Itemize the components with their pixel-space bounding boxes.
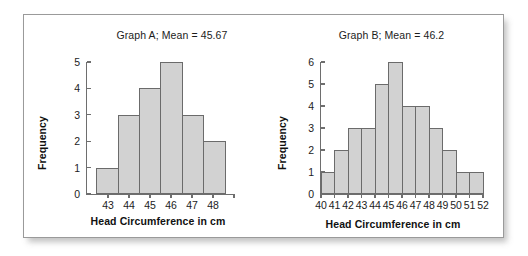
graph-b-plot-area: 0 1 2 3 4 bbox=[320, 62, 483, 195]
graph-b-ytick-label-1: 1 bbox=[308, 165, 314, 179]
graph-b-ytick-label-6: 6 bbox=[308, 55, 314, 69]
graph-b-xtick-label-49: 49 bbox=[435, 199, 449, 212]
tick-mark bbox=[128, 194, 129, 198]
graph-a-bar-44 bbox=[118, 115, 140, 194]
tick-mark bbox=[415, 194, 416, 198]
tick-mark bbox=[374, 194, 375, 198]
figure-panel: Graph A; Mean = 45.67 Frequency 0 1 2 bbox=[23, 14, 504, 238]
graph-b-xtick-label-45: 45 bbox=[381, 199, 395, 212]
graph-b-bar-46-47 bbox=[402, 106, 417, 194]
graph-b-y-axis-label: Frequency bbox=[276, 116, 288, 170]
graph-b-bar-41-42 bbox=[334, 150, 349, 194]
tick-mark bbox=[170, 194, 171, 198]
graph-b-xtick-label-50: 50 bbox=[449, 199, 463, 212]
graph-b-xtick-label-44: 44 bbox=[368, 199, 382, 212]
graph-a-xtick-label-44: 44 bbox=[119, 199, 139, 212]
graph-b-bar-49-50 bbox=[442, 150, 457, 194]
tick-mark bbox=[212, 194, 213, 198]
tick-mark bbox=[149, 194, 150, 198]
tick-mark bbox=[455, 194, 456, 198]
graph-b-bar-44-45 bbox=[375, 84, 390, 194]
graph-a-ytick-label-1: 1 bbox=[74, 161, 80, 175]
graph-a-title: Graph A; Mean = 45.67 bbox=[24, 29, 294, 41]
graph-b-bars bbox=[321, 62, 483, 194]
graph-a-ytick-label-0: 0 bbox=[74, 187, 80, 201]
graph-a-xtick-label-47: 47 bbox=[182, 199, 202, 212]
graph-b-xtick-label-46: 46 bbox=[395, 199, 409, 212]
tick-mark bbox=[401, 194, 402, 198]
graph-a-y-axis-label: Frequency bbox=[36, 116, 48, 170]
graph-a-x-axis-label: Head Circumference in cm bbox=[48, 215, 268, 227]
tick-mark bbox=[469, 194, 470, 198]
graph-a-ytick-label-4: 4 bbox=[74, 81, 80, 95]
tick-mark bbox=[347, 194, 348, 198]
graph-b-x-axis-label: Head Circumference in cm bbox=[288, 218, 498, 230]
tick-mark bbox=[361, 194, 362, 198]
graph-b-xtick-label-48: 48 bbox=[422, 199, 436, 212]
tick-mark bbox=[334, 194, 335, 198]
graph-b-xtick-label-47: 47 bbox=[408, 199, 422, 212]
graph-b-bar-47-48 bbox=[415, 106, 430, 194]
tick-mark bbox=[233, 194, 234, 198]
graph-a-bar-46 bbox=[160, 62, 182, 194]
graph-a-container: Graph A; Mean = 45.67 Frequency 0 1 2 bbox=[24, 15, 268, 237]
tick-mark bbox=[442, 194, 443, 198]
graph-b-bar-50-51 bbox=[456, 172, 471, 194]
graph-b-ytick-label-3: 3 bbox=[308, 121, 314, 135]
graph-a-xtick-label-46: 46 bbox=[161, 199, 181, 212]
tick-mark bbox=[482, 194, 483, 198]
tick-mark bbox=[191, 194, 192, 198]
graph-a-ytick-label-2: 2 bbox=[74, 134, 80, 148]
graph-b-ytick-label-4: 4 bbox=[308, 99, 314, 113]
graph-b-xtick-label-41: 41 bbox=[327, 199, 341, 212]
graph-a-ytick-label-3: 3 bbox=[74, 108, 80, 122]
graph-b-bar-45-46 bbox=[388, 62, 403, 194]
graph-b-container: Graph B; Mean = 46.2 Frequency 0 1 2 bbox=[268, 15, 503, 237]
graph-a-plot-area: 0 1 2 3 4 bbox=[86, 62, 234, 195]
graph-b-bar-42-43 bbox=[348, 128, 363, 194]
graph-b-title: Graph B; Mean = 46.2 bbox=[268, 29, 509, 41]
graph-a-xtick-label-48: 48 bbox=[203, 199, 223, 212]
graph-b-bar-51-52 bbox=[469, 172, 484, 194]
tick-mark bbox=[428, 194, 429, 198]
graph-a-ytick-label-5: 5 bbox=[74, 55, 80, 69]
graph-a-bar-48 bbox=[203, 141, 225, 194]
graph-b-bar-40-41 bbox=[321, 172, 336, 194]
graph-a-xtick-label-43: 43 bbox=[98, 199, 118, 212]
tick-mark bbox=[388, 194, 389, 198]
graph-b-xtick-label-42: 42 bbox=[341, 199, 355, 212]
graph-b-bar-48-49 bbox=[429, 128, 444, 194]
graph-b-xtick-label-40: 40 bbox=[314, 199, 328, 212]
graph-b-xtick-label-52: 52 bbox=[476, 199, 490, 212]
graph-a-bar-47 bbox=[182, 115, 204, 194]
graph-b-xtick-label-51: 51 bbox=[462, 199, 476, 212]
graph-b-bar-43-44 bbox=[361, 128, 376, 194]
tick-mark bbox=[107, 194, 108, 198]
graph-b-ytick-label-2: 2 bbox=[308, 143, 314, 157]
tick-mark bbox=[320, 194, 321, 198]
graph-a-bars bbox=[87, 62, 234, 194]
graph-b-ytick-label-5: 5 bbox=[308, 77, 314, 91]
graph-a-xtick-label-45: 45 bbox=[140, 199, 160, 212]
graph-b-xtick-label-43: 43 bbox=[354, 199, 368, 212]
graph-a-bar-43 bbox=[96, 168, 118, 194]
graph-a-bar-45 bbox=[139, 88, 161, 194]
